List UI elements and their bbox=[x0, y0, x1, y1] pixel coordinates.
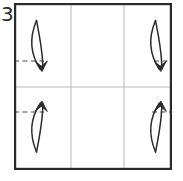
step-number-label: 3 bbox=[1, 2, 14, 26]
origami-step-figure: 3 bbox=[0, 0, 183, 181]
fold-diagram: 3 bbox=[0, 0, 183, 181]
